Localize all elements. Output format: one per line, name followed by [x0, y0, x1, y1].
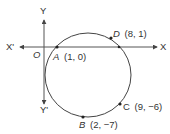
origin-label: O — [33, 49, 41, 60]
x-negative-label: X' — [6, 41, 14, 52]
point-d-axis-intersection — [118, 46, 121, 49]
point-b-name: B — [79, 119, 86, 130]
point-c-coords: (9, −6) — [135, 101, 163, 112]
point-a-name: A — [52, 51, 59, 62]
point-c-dot — [118, 102, 121, 105]
y-negative-label: Y' — [40, 104, 48, 115]
point-a-label: A (1, 0) — [52, 51, 86, 62]
circle — [45, 33, 131, 117]
circle-diagram: Y X' O X Y' A (1, 0) D (8, 1) C (9, −6) … — [0, 0, 170, 134]
x-positive-label: X — [160, 41, 167, 52]
point-b-label: B (2, −7) — [79, 119, 118, 130]
y-positive-label: Y — [40, 5, 47, 16]
point-a-dot — [55, 45, 58, 48]
point-a-coords: (1, 0) — [64, 51, 86, 62]
point-c-label: C (9, −6) — [123, 101, 162, 112]
point-b-coords: (2, −7) — [90, 119, 118, 130]
point-d-coords: (8, 1) — [125, 28, 147, 39]
point-d-label: D (8, 1) — [113, 28, 147, 39]
point-d-name: D — [113, 28, 120, 39]
point-c-name: C — [123, 101, 130, 112]
